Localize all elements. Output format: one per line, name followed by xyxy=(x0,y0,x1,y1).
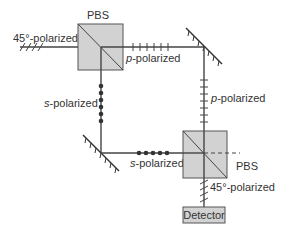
optical-diagram: 45°-polarized PBS p-polarized xyxy=(0,0,281,238)
detector-label: Detector xyxy=(183,209,225,221)
top-path-label: p-polarized xyxy=(125,52,180,64)
input-polarization-label: 45°-polarized xyxy=(13,32,78,44)
output-polarization-label: 45°-polarized xyxy=(210,181,275,193)
right-path-label: p-polarized xyxy=(210,92,265,104)
left-path-label: s-polarized xyxy=(44,97,98,109)
pbs-bottom-label: PBS xyxy=(236,160,258,172)
pbs-bottom xyxy=(183,131,227,178)
detector: Detector xyxy=(183,207,225,223)
bottom-path-label: s-polarized xyxy=(130,157,184,169)
pbs-top-label: PBS xyxy=(87,9,109,21)
